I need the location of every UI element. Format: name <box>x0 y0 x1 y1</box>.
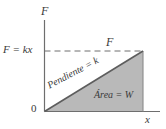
hooke-law-figure: F x 0 F = kx F Pendiente = k Área = W <box>0 0 166 129</box>
force-label: F <box>106 36 113 48</box>
origin-label: 0 <box>31 103 37 114</box>
y-axis-label: F <box>41 5 48 17</box>
area-work-label: Área = W <box>94 90 133 100</box>
x-axis-label: x <box>145 114 150 125</box>
hooke-law-label: F = kx <box>3 44 32 55</box>
